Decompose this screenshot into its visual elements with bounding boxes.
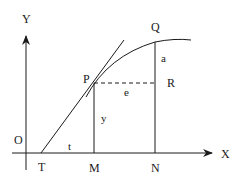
tangent-line: [41, 40, 124, 153]
segment-t-label: t: [68, 140, 71, 152]
tangent-diagram: Y X O P Q R T M N a e y t: [0, 0, 243, 179]
segment-e-label: e: [124, 86, 129, 98]
point-m-label: M: [89, 161, 100, 175]
point-q-label: Q: [151, 20, 160, 34]
point-p-label: P: [83, 72, 90, 86]
y-axis-label: Y: [22, 12, 31, 26]
point-r-label: R: [167, 76, 175, 90]
segment-y-label: y: [101, 112, 107, 124]
x-axis-label: X: [221, 147, 230, 161]
segment-a-label: a: [161, 52, 166, 64]
origin-label: O: [14, 133, 23, 147]
point-t-label: T: [38, 160, 46, 174]
curve: [86, 39, 191, 97]
point-n-label: N: [151, 161, 160, 175]
